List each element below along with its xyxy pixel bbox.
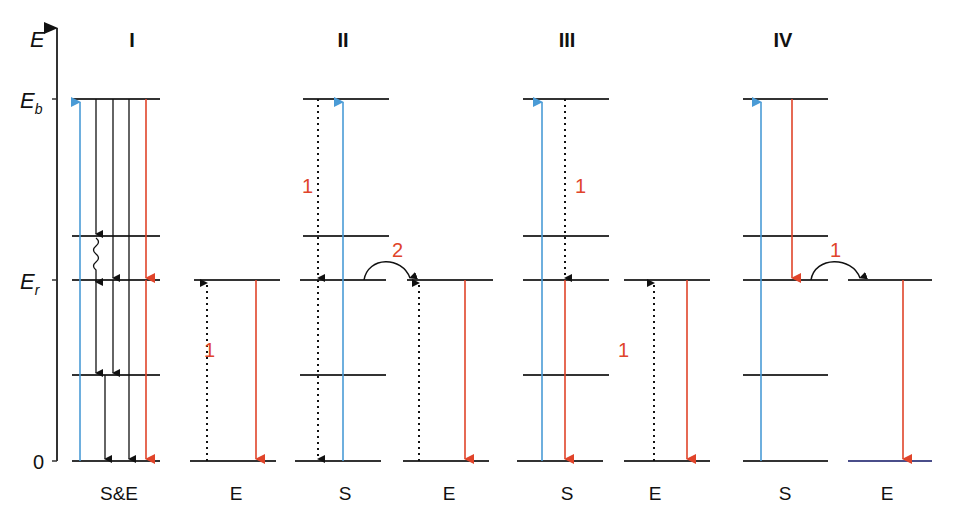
column-label: S <box>779 483 792 504</box>
step-label: 1 <box>618 339 629 361</box>
column-label: E <box>443 483 456 504</box>
panel-title-iv: IV <box>774 29 794 51</box>
panel-iii-s <box>517 99 609 461</box>
step-label: 1 <box>302 175 313 197</box>
energy-level-diagram: E Eb Er 0 I II III IV <box>0 0 955 524</box>
step-labels: 1 1 2 1 1 1 <box>204 175 841 361</box>
step-label: 1 <box>575 175 586 197</box>
column-label: S <box>561 483 574 504</box>
panel-title-i: I <box>129 29 135 51</box>
tick-er: Er <box>20 269 41 298</box>
energy-transfer-curve <box>364 262 410 280</box>
tick-zero: 0 <box>33 451 44 473</box>
column-label: E <box>881 483 894 504</box>
panel-i <box>72 99 160 461</box>
column-label: S <box>339 483 352 504</box>
panel-ii-e <box>403 280 493 461</box>
step-label: 1 <box>830 239 841 261</box>
panel-title-ii: II <box>337 29 348 51</box>
tick-eb: Eb <box>20 88 43 117</box>
panel-title-iii: III <box>559 29 576 51</box>
column-labels: S&E E S E S E S E <box>100 483 893 504</box>
column-label: S&E <box>100 483 138 504</box>
energy-transfer-curve <box>811 262 860 280</box>
panel-iv-s <box>743 99 860 461</box>
energy-axis: E Eb Er 0 <box>20 27 57 473</box>
column-label: E <box>230 483 243 504</box>
panel-ii-s <box>295 99 410 461</box>
column-label: E <box>649 483 662 504</box>
axis-label: E <box>30 27 45 52</box>
panel-iv-e <box>848 280 932 461</box>
panel-titles: I II III IV <box>129 29 793 51</box>
panel-i-e <box>190 280 280 461</box>
panel-iii-e <box>624 280 710 461</box>
step-label: 2 <box>392 239 403 261</box>
step-label: 1 <box>204 339 215 361</box>
